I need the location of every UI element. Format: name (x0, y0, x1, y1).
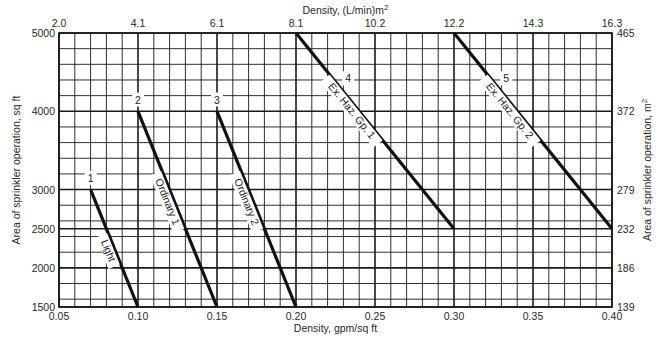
y-tick-label: 1500 (32, 301, 56, 313)
y-tick-label: 2000 (32, 262, 56, 274)
y-tick-label: 5000 (32, 27, 56, 39)
x-tick-label: 0.25 (365, 310, 386, 322)
y2-tick-label: 465 (617, 27, 635, 39)
y2-tick-label: 232 (617, 223, 635, 235)
plot-frame (59, 33, 612, 307)
x-axis-title: Density, gpm/sq ft (294, 322, 377, 334)
x2-tick-label: 6.1 (210, 17, 225, 29)
curve-number-2: 2 (135, 94, 141, 106)
curve-number-1: 1 (88, 172, 94, 184)
x-tick-label: 0.15 (207, 310, 228, 322)
x2-tick-label: 14.3 (523, 17, 544, 29)
x-tick-label: 0.35 (523, 310, 544, 322)
y-axis-title: Area of sprinkler operation, sq ft (10, 96, 22, 245)
x2-axis-title: Density, (L/min)m2 (303, 3, 389, 16)
x-tick-label: 0.10 (128, 310, 149, 322)
y2-tick-label: 279 (617, 184, 635, 196)
x2-tick-label: 8.1 (289, 17, 304, 29)
y-tick-label: 4000 (32, 105, 56, 117)
y-tick-label: 2500 (32, 223, 56, 235)
y-tick-label: 3000 (32, 184, 56, 196)
sprinkler-density-area-chart: 1Light2Ordinary 13Ordinary 24Ex. Haz. Gp… (0, 0, 665, 346)
y2-tick-label: 186 (617, 262, 635, 274)
x-tick-label: 0.30 (444, 310, 465, 322)
grid (59, 33, 612, 307)
y2-axis-title: Area of sprinkler operation, m2 (640, 98, 653, 241)
curve-number-5: 5 (503, 72, 509, 84)
y2-tick-label: 372 (617, 105, 635, 117)
curve-labels: 1Light2Ordinary 13Ordinary 24Ex. Haz. Gp… (85, 71, 542, 269)
x2-tick-label: 10.2 (365, 17, 386, 29)
x2-tick-label: 12.2 (444, 17, 465, 29)
y2-tick-label: 139 (617, 301, 635, 313)
curve-number-4: 4 (345, 72, 351, 84)
x-tick-label: 0.20 (286, 310, 307, 322)
curve-number-3: 3 (214, 94, 220, 106)
x2-tick-label: 4.1 (131, 17, 146, 29)
